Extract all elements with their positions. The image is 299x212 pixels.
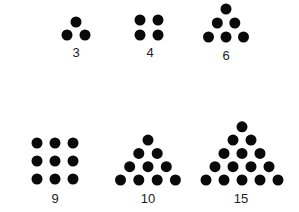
figure-6-label: 6 xyxy=(222,48,229,63)
dot xyxy=(143,135,154,146)
dot xyxy=(133,175,144,186)
figure-10 xyxy=(115,135,181,186)
dot xyxy=(135,30,146,41)
dot xyxy=(62,30,73,41)
dot xyxy=(161,161,172,172)
dot xyxy=(228,161,239,172)
dot xyxy=(143,161,154,172)
figure-9-label: 9 xyxy=(51,191,58,206)
dot xyxy=(32,138,43,149)
figure-4-label: 4 xyxy=(146,45,153,60)
dot xyxy=(153,30,164,41)
figure-15-label: 15 xyxy=(234,191,248,206)
dot xyxy=(68,156,79,167)
figure-3 xyxy=(62,17,91,41)
dot xyxy=(68,174,79,185)
dot xyxy=(50,174,61,185)
dot xyxy=(255,148,266,159)
figure-4 xyxy=(135,15,164,41)
dot xyxy=(115,175,126,186)
figure-3-label: 3 xyxy=(72,45,79,60)
dot xyxy=(32,156,43,167)
dot xyxy=(246,161,257,172)
dot xyxy=(135,15,146,26)
dot xyxy=(229,18,240,29)
dot xyxy=(221,32,232,43)
dot xyxy=(152,175,163,186)
dot xyxy=(71,17,82,28)
dot xyxy=(273,175,284,186)
dot xyxy=(219,175,230,186)
dot xyxy=(221,4,232,15)
dot xyxy=(255,175,266,186)
figurate-numbers-diagram: 3 4 6 9 10 15 xyxy=(0,0,299,212)
figure-15 xyxy=(201,121,284,185)
figure-9 xyxy=(32,138,79,185)
dot xyxy=(133,148,144,159)
dot xyxy=(80,30,91,41)
dot xyxy=(50,138,61,149)
dot xyxy=(170,175,181,186)
dot xyxy=(153,15,164,26)
dot xyxy=(32,174,43,185)
dot xyxy=(246,135,257,146)
dot xyxy=(212,18,223,29)
dot xyxy=(238,32,249,43)
dot xyxy=(68,138,79,149)
figure-10-label: 10 xyxy=(141,191,155,206)
dot xyxy=(264,161,275,172)
dot xyxy=(50,156,61,167)
dot xyxy=(201,175,212,186)
figure-6 xyxy=(203,4,249,43)
dot xyxy=(237,175,248,186)
dot xyxy=(228,135,239,146)
dot xyxy=(237,148,248,159)
dot xyxy=(152,148,163,159)
dot xyxy=(237,121,248,132)
dot xyxy=(203,32,214,43)
dot xyxy=(124,161,135,172)
dot xyxy=(219,148,230,159)
dot xyxy=(210,161,221,172)
